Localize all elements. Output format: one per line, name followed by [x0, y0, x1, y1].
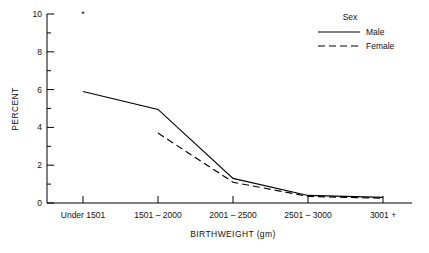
- y-tick-labels: 0 2 4 6 8 10: [33, 9, 43, 208]
- y-tick-label-10: 10: [33, 9, 43, 19]
- x-category-label-1: 1501 – 2000: [134, 210, 182, 220]
- x-category-label-0: Under 1501: [61, 210, 106, 220]
- legend-label-male: Male: [366, 27, 385, 37]
- legend-title: Sex: [343, 12, 358, 22]
- x-tick-labels: Under 1501 1501 – 2000 2001 – 2500 2501 …: [61, 210, 396, 220]
- legend-label-female: Female: [366, 41, 395, 51]
- x-category-label-3: 2501 – 3000: [284, 210, 332, 220]
- y-tick-label-8: 8: [37, 47, 42, 57]
- y-tick-label-0: 0: [37, 198, 42, 208]
- asterisk-annotation: *: [81, 9, 85, 19]
- chart-canvas: 0 2 4 6 8 10 PERCENT Under 1501 1501 – 2…: [0, 0, 429, 253]
- x-category-label-4: 3001 +: [370, 210, 396, 220]
- x-axis-title: BIRTHWEIGHT (gm): [190, 229, 275, 239]
- series-line-male: [83, 91, 383, 197]
- y-tick-label-2: 2: [37, 160, 42, 170]
- y-axis-title: PERCENT: [10, 87, 20, 130]
- series-line-female: [158, 133, 383, 198]
- legend: Sex Male Female: [318, 12, 395, 51]
- birthweight-percent-chart: 0 2 4 6 8 10 PERCENT Under 1501 1501 – 2…: [0, 0, 429, 253]
- series-group: [83, 91, 383, 198]
- y-tick-label-4: 4: [37, 122, 42, 132]
- x-category-label-2: 2001 – 2500: [209, 210, 257, 220]
- y-tick-label-6: 6: [37, 85, 42, 95]
